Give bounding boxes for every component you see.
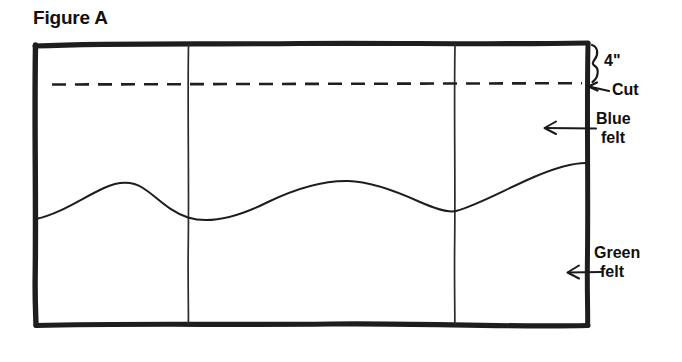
green-felt-label-line2: felt [594,262,640,281]
blue-felt-label-line1: Blue [596,110,631,127]
diagram-drawing [0,0,682,362]
figure-canvas: Figure A [0,0,682,362]
cut-arrow-icon [589,83,610,92]
cut-label: Cut [612,80,639,99]
cut-dashed-line [52,83,582,84]
green-felt-label: Green felt [594,243,640,281]
panel-outline [35,43,588,326]
green-felt-label-line1: Green [594,244,640,261]
wavy-seam-line [36,163,588,220]
four-inch-brace-icon [592,45,598,82]
blue-felt-label-line2: felt [596,128,631,147]
four-inch-measure-label: 4" [604,51,620,70]
blue-felt-label: Blue felt [596,109,631,147]
